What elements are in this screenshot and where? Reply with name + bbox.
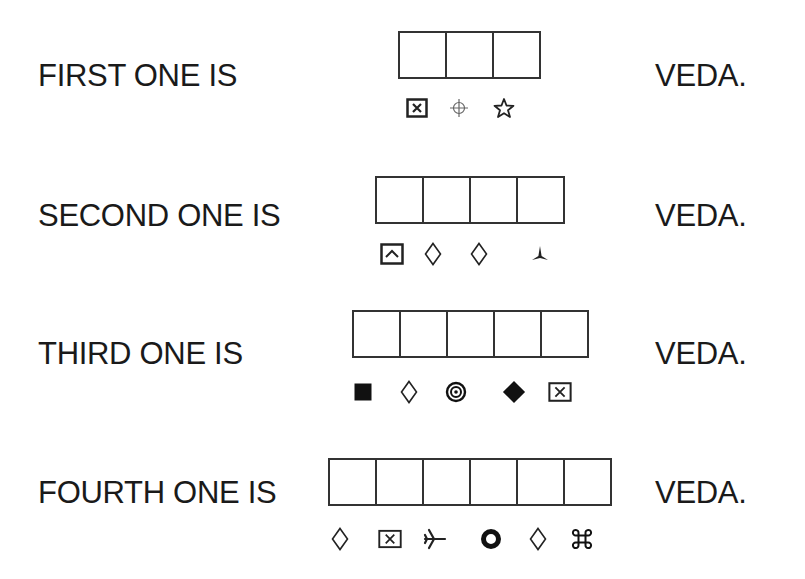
answer-box[interactable]	[495, 312, 542, 356]
answer-box[interactable]	[400, 33, 447, 77]
answer-box[interactable]	[448, 312, 495, 356]
answer-box[interactable]	[354, 312, 401, 356]
answer-box[interactable]	[377, 460, 424, 504]
boxed-x-icon	[405, 96, 429, 120]
answer-box[interactable]	[330, 460, 377, 504]
answer-box[interactable]	[542, 312, 587, 356]
filled-square-icon	[351, 380, 375, 404]
answer-box[interactable]	[401, 312, 448, 356]
thick-ring-icon	[479, 527, 503, 551]
command-key-icon	[570, 527, 594, 551]
filled-diamond-icon	[502, 380, 526, 404]
bullseye-icon	[444, 380, 468, 404]
answer-text: VEDA.	[655, 336, 747, 372]
diamond-outline-icon	[526, 527, 550, 551]
answer-text: VEDA.	[655, 475, 747, 511]
answer-box[interactable]	[471, 178, 518, 222]
answer-text: VEDA.	[655, 198, 747, 234]
answer-box[interactable]	[447, 33, 494, 77]
answer-box[interactable]	[518, 460, 565, 504]
crosshair-circle-icon	[447, 96, 471, 120]
three-point-star-icon	[528, 242, 552, 266]
diamond-outline-icon	[328, 527, 352, 551]
row-label: FIRST ONE IS	[38, 58, 237, 94]
star-outline-icon	[492, 96, 516, 120]
answer-text: VEDA.	[655, 58, 747, 94]
boxed-caret-up-icon	[380, 242, 404, 266]
row-label: FOURTH ONE IS	[38, 475, 276, 511]
answer-box[interactable]	[424, 178, 471, 222]
answer-boxes	[375, 176, 565, 224]
row-label: SECOND ONE IS	[38, 198, 280, 234]
symbol-row	[328, 527, 610, 551]
answer-boxes	[328, 458, 612, 506]
airplane-icon	[423, 527, 447, 551]
answer-box[interactable]	[424, 460, 471, 504]
diamond-outline-icon	[397, 380, 421, 404]
answer-box[interactable]	[377, 178, 424, 222]
answer-box[interactable]	[518, 178, 563, 222]
answer-box[interactable]	[565, 460, 610, 504]
symbol-row	[352, 380, 588, 404]
answer-boxes	[352, 310, 589, 358]
answer-box[interactable]	[494, 33, 539, 77]
diamond-outline-icon	[467, 242, 491, 266]
symbol-row	[375, 242, 565, 266]
answer-box[interactable]	[471, 460, 518, 504]
diamond-outline-icon	[421, 242, 445, 266]
answer-boxes	[398, 31, 541, 79]
boxed-x-icon	[548, 380, 572, 404]
row-label: THIRD ONE IS	[38, 336, 243, 372]
symbol-row	[398, 96, 541, 120]
boxed-x-icon	[378, 527, 402, 551]
